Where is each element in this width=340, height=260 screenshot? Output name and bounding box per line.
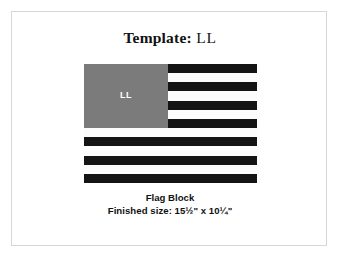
flag-canton: LL [84,64,168,128]
caption-line-title: Flag Block [0,192,340,205]
page-title: Template: LL [0,29,340,47]
template-page: Template: LL LL Flag Block Finished size… [0,0,340,260]
flag-caption: Flag Block Finished size: 15½" x 10¼" [0,192,340,217]
page-title-value: LL [192,29,217,46]
page-title-prefix: Template: [123,29,191,46]
flag-stripe [84,137,257,146]
flag-block-diagram: LL [84,64,257,183]
flag-stripe [84,165,257,174]
flag-stripe [84,128,257,137]
flag-stripe [84,146,257,156]
caption-line-size: Finished size: 15½" x 10¼" [0,205,340,218]
canton-label: LL [120,91,132,100]
flag-stripe [84,174,257,183]
flag-stripe [84,156,257,165]
